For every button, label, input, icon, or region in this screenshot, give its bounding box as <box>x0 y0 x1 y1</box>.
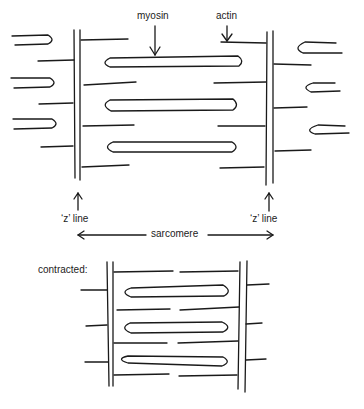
actin-filaments-right-outer <box>274 64 311 151</box>
z-line-right-arrow <box>265 193 273 211</box>
sarcomere-diagram <box>0 0 364 409</box>
z-line-left-arrow <box>74 193 82 210</box>
sarcomere-label: sarcomere <box>151 229 198 239</box>
actin-filaments-left-outer <box>38 60 74 147</box>
actin-filaments-right-inner <box>214 42 266 168</box>
contracted-z-line-right <box>238 261 247 392</box>
contracted-actin-right-outer <box>246 284 269 360</box>
z-line-left-label: ‘z’ line <box>61 214 88 224</box>
z-line-right-label: ‘z’ line <box>250 214 277 224</box>
neighbor-myosin-right <box>298 42 349 134</box>
myosin-arrow <box>150 26 160 55</box>
z-line-right <box>266 31 273 185</box>
z-line-left <box>74 30 80 180</box>
contracted-actin-left-outer <box>81 290 108 362</box>
contracted-z-line-left <box>107 262 113 386</box>
myosin-label: myosin <box>137 11 169 21</box>
contracted-label: contracted: <box>38 265 87 275</box>
contracted-sarcomere <box>81 261 269 392</box>
actin-label: actin <box>216 11 237 21</box>
actin-arrow <box>222 26 232 41</box>
neighbor-myosin-left <box>11 35 56 129</box>
contracted-myosin-filaments <box>122 285 229 366</box>
myosin-filaments <box>105 56 242 152</box>
relaxed-sarcomere <box>11 26 349 239</box>
